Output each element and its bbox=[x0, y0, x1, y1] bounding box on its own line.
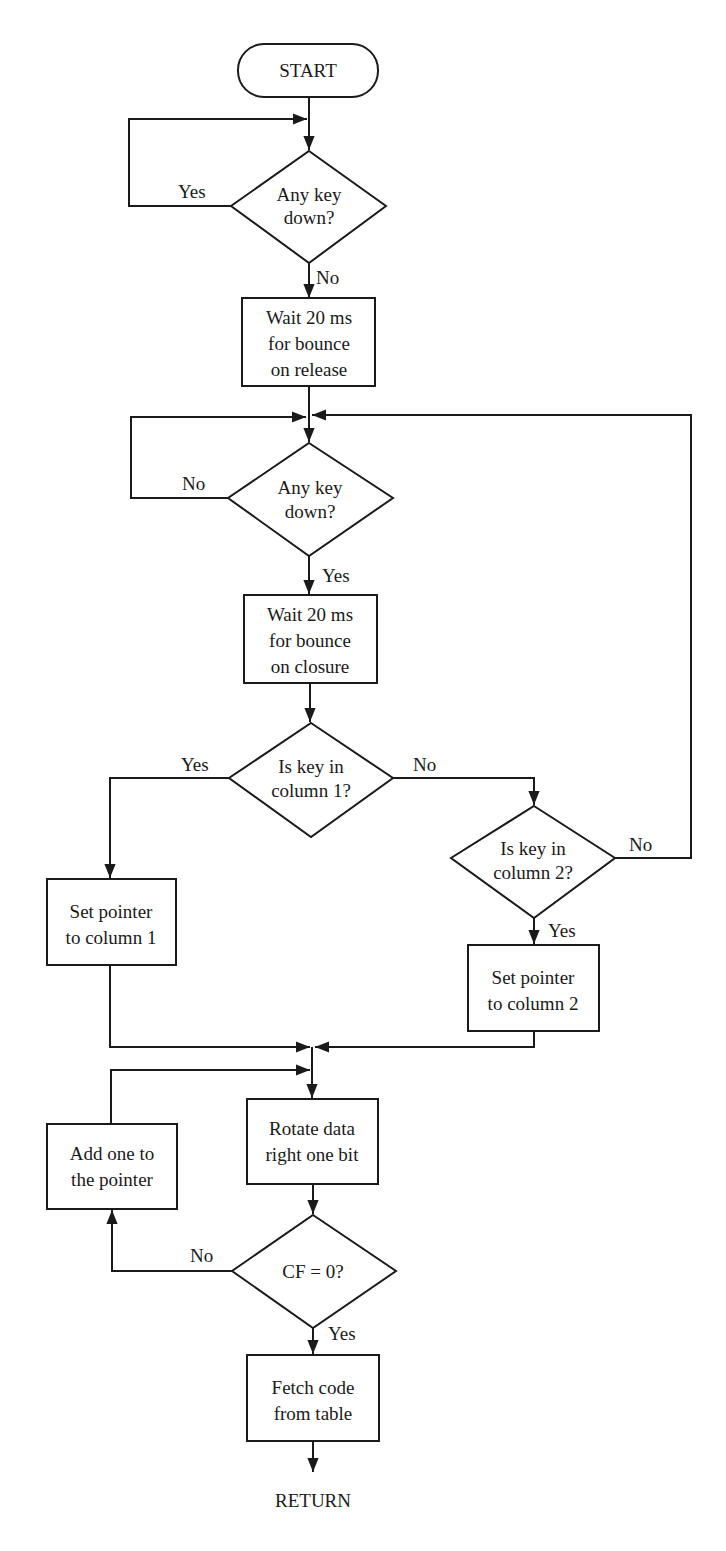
label-col1-no: No bbox=[413, 754, 436, 775]
process-rotate-data: Rotate data right one bit bbox=[247, 1099, 378, 1184]
label-cf-no: No bbox=[190, 1245, 213, 1266]
wait-closure-line1: Wait 20 ms bbox=[267, 604, 353, 625]
set-col2-line1: Set pointer bbox=[492, 967, 576, 988]
decision-release-line2: down? bbox=[284, 207, 335, 228]
keypad-scan-flowchart: START Any key down? Wait 20 ms for bounc… bbox=[0, 0, 726, 1551]
start-label: START bbox=[279, 60, 337, 81]
edge-set-col1-to-merge bbox=[110, 965, 310, 1047]
process-wait-closure: Wait 20 ms for bounce on closure bbox=[244, 595, 377, 683]
decision-press-check: Any key down? bbox=[228, 443, 393, 556]
fetch-line2: from table bbox=[274, 1403, 353, 1424]
label-col2-yes: Yes bbox=[548, 920, 576, 941]
set-col1-line1: Set pointer bbox=[70, 901, 154, 922]
add-one-line1: Add one to bbox=[70, 1143, 154, 1164]
process-add-one: Add one to the pointer bbox=[47, 1124, 177, 1209]
process-wait-release: Wait 20 ms for bounce on release bbox=[242, 298, 375, 386]
process-set-pointer-col1: Set pointer to column 1 bbox=[47, 879, 176, 965]
wait-release-line3: on release bbox=[271, 359, 347, 380]
label-col1-yes: Yes bbox=[181, 754, 209, 775]
set-col2-line2: to column 2 bbox=[488, 993, 579, 1014]
label-press-no: No bbox=[182, 473, 205, 494]
label-col2-no: No bbox=[629, 834, 652, 855]
decision-press-line2: down? bbox=[285, 501, 336, 522]
label-release-yes: Yes bbox=[178, 181, 206, 202]
start-terminator: START bbox=[238, 44, 378, 97]
decision-column1-check: Is key in column 1? bbox=[229, 723, 393, 837]
decision-col1-line2: column 1? bbox=[271, 780, 351, 801]
edge-cf-no bbox=[112, 1210, 232, 1271]
process-set-pointer-col2: Set pointer to column 2 bbox=[468, 945, 599, 1031]
fetch-line1: Fetch code bbox=[272, 1377, 355, 1398]
decision-col1-line1: Is key in bbox=[278, 756, 344, 777]
edge-set-col2-to-merge bbox=[315, 1031, 534, 1047]
wait-closure-line3: on closure bbox=[271, 656, 350, 677]
set-col1-line2: to column 1 bbox=[66, 927, 157, 948]
edge-col1-no bbox=[393, 778, 534, 805]
wait-closure-line2: for bounce bbox=[269, 630, 351, 651]
label-press-yes: Yes bbox=[322, 565, 350, 586]
rotate-line2: right one bit bbox=[266, 1144, 360, 1165]
wait-release-line2: for bounce bbox=[268, 333, 350, 354]
decision-press-line1: Any key bbox=[278, 477, 343, 498]
decision-release-line1: Any key bbox=[277, 184, 342, 205]
process-fetch-code: Fetch code from table bbox=[247, 1355, 379, 1441]
add-one-line2: the pointer bbox=[71, 1169, 153, 1190]
label-cf-yes: Yes bbox=[328, 1323, 356, 1344]
return-label: RETURN bbox=[275, 1490, 351, 1511]
decision-cf-check: CF = 0? bbox=[232, 1215, 396, 1328]
decision-col2-line2: column 2? bbox=[493, 862, 573, 883]
edge-col1-yes bbox=[110, 778, 229, 878]
label-release-no: No bbox=[316, 267, 339, 288]
decision-release-check: Any key down? bbox=[231, 151, 386, 263]
decision-column2-check: Is key in column 2? bbox=[451, 806, 615, 918]
decision-cf-line1: CF = 0? bbox=[282, 1261, 343, 1282]
wait-release-line1: Wait 20 ms bbox=[266, 307, 352, 328]
decision-col2-line1: Is key in bbox=[500, 838, 566, 859]
rotate-line1: Rotate data bbox=[269, 1118, 356, 1139]
